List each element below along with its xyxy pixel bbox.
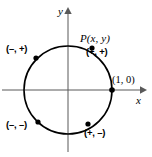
point-q4-marker: [85, 121, 90, 126]
point-p-label: P(x, y): [80, 33, 110, 44]
figure-container: y x P(x, y) (+, +) (–, +) (–, –) (+, –) …: [0, 0, 152, 157]
quadrant-4-sign-label: (+, –): [84, 128, 105, 138]
quadrant-1-sign-label: (+, +): [86, 47, 108, 57]
point-1-0-marker: [109, 87, 115, 93]
point-q3-marker: [35, 119, 40, 124]
x-axis-label: x: [136, 95, 141, 106]
point-q2-marker: [33, 55, 38, 60]
y-axis-label: y: [58, 6, 63, 17]
x-axis-arrow-icon: [140, 86, 147, 93]
y-axis-arrow-icon: [64, 7, 71, 14]
quadrant-3-sign-label: (–, –): [6, 120, 27, 130]
quadrant-2-sign-label: (–, +): [6, 44, 27, 54]
intercept-1-0-label: (1, 0): [112, 75, 135, 86]
